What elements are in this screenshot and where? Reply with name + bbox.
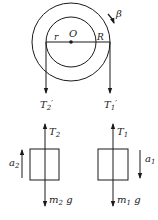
angular-accel-arrow [108,14,114,23]
rope-forces: T2′ T1′ [40,42,117,112]
outer-radius-label: R [96,32,104,42]
inner-radius-label: r [54,32,59,42]
accel-label-right: a1 [145,153,155,166]
angular-accel-label: β [115,8,122,19]
weight-label-right: m1 g [117,194,141,207]
left-rope-label: T2′ [40,98,53,112]
pulley-diagram: O r R β T2′ T1′ T2 m2 g a2 [0,0,158,220]
tension-label-right: T1 [117,126,128,139]
block-right: T1 m1 g a1 [98,124,155,207]
accel-label-left: a2 [9,157,20,170]
center-dot [69,40,73,44]
right-rope-label: T1′ [104,98,117,112]
weight-label-left: m2 g [49,194,73,207]
tension-label-left: T2 [49,126,61,139]
block-left: T2 m2 g a2 [9,124,73,207]
center-label: O [69,28,77,39]
